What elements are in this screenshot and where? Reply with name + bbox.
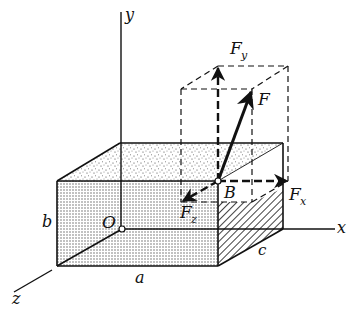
y-axis-label: y <box>124 5 135 24</box>
origin-label: O <box>102 212 116 232</box>
force-fx-label: F x <box>288 184 307 208</box>
dimension-b-label: b <box>42 212 52 231</box>
x-axis-label: x <box>337 218 346 237</box>
point-b <box>215 178 221 184</box>
svg-text:x: x <box>300 195 307 208</box>
force-fy-label: F y <box>229 38 248 62</box>
force-diagram: y x z O a b c B F F y F x F z <box>0 0 357 319</box>
svg-text:y: y <box>240 49 248 62</box>
svg-text:z: z <box>190 213 197 226</box>
point-b-label: B <box>223 183 236 202</box>
box <box>57 143 283 266</box>
dimension-c-label: c <box>258 241 267 259</box>
dimension-a-label: a <box>135 268 145 287</box>
origin-point <box>119 226 125 232</box>
force-f-label: F <box>257 89 271 109</box>
z-axis-label: z <box>11 289 21 308</box>
